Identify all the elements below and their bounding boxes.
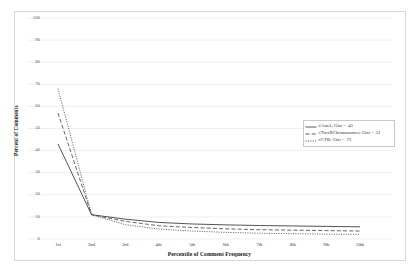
x-axis-title: Percentile of Comment Frequency	[0, 252, 419, 257]
x-tick-label: 1st	[43, 243, 73, 248]
y-tick-label: 60	[20, 104, 40, 109]
y-tick-label: 90	[20, 38, 40, 43]
legend-label: r/CFB; Gini = .73	[319, 138, 352, 143]
y-tick-label: 80	[20, 60, 40, 65]
x-tick-label: 9th	[311, 243, 341, 248]
legend-line-swatch	[305, 138, 317, 144]
y-tick-label: 0	[20, 237, 40, 242]
chart-figure: 1009080706050403020100 1st2nd3rd4th5th6t…	[0, 0, 419, 277]
y-tick-label: 70	[20, 82, 40, 87]
x-tick-label: 2nd	[77, 243, 107, 248]
y-tick-label: 30	[20, 170, 40, 175]
y-axis-title: Percent of Comments	[14, 86, 19, 176]
y-tick-label: 40	[20, 148, 40, 153]
chart-legend: r/AmA; Gini = .43r/TwoXChromosomes; Gini…	[303, 120, 395, 147]
x-tick-label: 8th	[278, 243, 308, 248]
legend-item: r/TwoXChromosomes; Gini = .51	[305, 130, 392, 137]
y-tick-label: 10	[20, 215, 40, 220]
legend-item: r/CFB; Gini = .73	[305, 137, 392, 144]
x-tick-label: 10th	[345, 243, 375, 248]
y-tick-label: 100	[20, 16, 40, 21]
x-tick-label: 6th	[211, 243, 241, 248]
x-tick-label: 7th	[244, 243, 274, 248]
legend-line-swatch	[305, 124, 317, 130]
x-tick-label: 4th	[144, 243, 174, 248]
x-tick-label: 3rd	[110, 243, 140, 248]
y-tick-label: 50	[20, 126, 40, 131]
legend-line-swatch	[305, 131, 317, 137]
y-tick-label: 20	[20, 192, 40, 197]
legend-label: r/AmA; Gini = .43	[319, 124, 353, 129]
x-tick-label: 5th	[177, 243, 207, 248]
legend-label: r/TwoXChromosomes; Gini = .51	[319, 131, 381, 136]
legend-item: r/AmA; Gini = .43	[305, 123, 392, 130]
